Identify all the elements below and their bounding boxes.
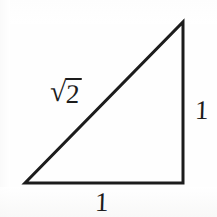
- radical-group: √2: [49, 78, 82, 108]
- triangle-shape: [0, 0, 217, 217]
- horizontal-leg-label: 1: [95, 189, 109, 216]
- geometry-figure: √2 1 1: [0, 0, 217, 217]
- radicand-value: 2: [64, 78, 82, 108]
- vertical-leg-label: 1: [195, 97, 209, 124]
- hypotenuse-label: √2: [50, 78, 81, 108]
